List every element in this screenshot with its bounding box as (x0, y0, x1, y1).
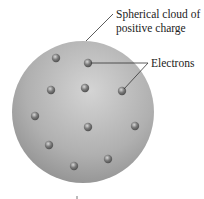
positive-charge-sphere (12, 41, 154, 183)
electron (47, 86, 55, 94)
electron (52, 54, 60, 62)
cloud-leader-line (86, 14, 113, 41)
electron (45, 141, 53, 149)
electron (31, 112, 39, 120)
electron (131, 122, 139, 130)
cloud-label-line2: positive charge (116, 22, 186, 35)
electron (84, 123, 92, 131)
electrons-label: Electrons (151, 57, 194, 70)
electron (84, 59, 92, 67)
electron (70, 162, 78, 170)
electron (104, 155, 112, 163)
cloud-label-line1: Spherical cloud of (116, 8, 200, 21)
electron (81, 84, 89, 92)
